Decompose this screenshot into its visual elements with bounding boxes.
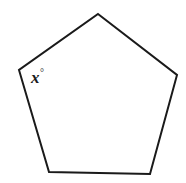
degree-symbol-icon: °	[40, 67, 44, 78]
geometry-figure-canvas: x°	[0, 0, 186, 183]
angle-variable-x: x	[31, 68, 40, 87]
interior-angle-label: x°	[31, 68, 44, 86]
pentagon-shape	[19, 14, 177, 174]
pentagon-diagram	[0, 0, 186, 183]
